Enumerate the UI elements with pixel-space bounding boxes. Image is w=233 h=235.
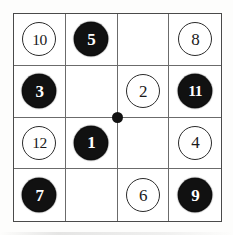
- token-9[interactable]: 9: [178, 178, 212, 212]
- token-8[interactable]: 8: [178, 22, 212, 56]
- grid-cell-r4c2[interactable]: [66, 169, 118, 221]
- grid-cell-r1c3[interactable]: [118, 14, 170, 66]
- grid-cell-r3c3[interactable]: [118, 118, 170, 170]
- grid-cell-r2c4[interactable]: 11: [169, 66, 221, 118]
- token-10[interactable]: 10: [22, 22, 56, 56]
- token-12[interactable]: 12: [22, 126, 56, 160]
- token-1[interactable]: 1: [74, 126, 108, 160]
- token-4[interactable]: 4: [178, 126, 212, 160]
- grid-cell-r3c4[interactable]: 4: [169, 118, 221, 170]
- grid-cell-r3c2[interactable]: 1: [66, 118, 118, 170]
- grid-cell-r4c4[interactable]: 9: [169, 169, 221, 221]
- grid-cell-r1c4[interactable]: 8: [169, 14, 221, 66]
- grid-cell-r4c1[interactable]: 7: [14, 169, 66, 221]
- puzzle-figure: 10 5 8 3 2 11 12 1: [0, 0, 233, 235]
- grid-cell-r4c3[interactable]: 6: [118, 169, 170, 221]
- token-5[interactable]: 5: [74, 22, 108, 56]
- grid-cell-r2c3[interactable]: 2: [118, 66, 170, 118]
- grid-cell-r1c1[interactable]: 10: [14, 14, 66, 66]
- token-2[interactable]: 2: [126, 74, 160, 108]
- grid-cell-r3c1[interactable]: 12: [14, 118, 66, 170]
- token-6[interactable]: 6: [126, 178, 160, 212]
- grid-cell-r2c2[interactable]: [66, 66, 118, 118]
- grid-cell-r2c1[interactable]: 3: [14, 66, 66, 118]
- token-7[interactable]: 7: [22, 178, 56, 212]
- grid-cell-r1c2[interactable]: 5: [66, 14, 118, 66]
- token-11[interactable]: 11: [178, 74, 212, 108]
- center-dot-icon: [112, 112, 123, 123]
- scan-edge-artifact: [0, 232, 233, 235]
- token-3[interactable]: 3: [22, 74, 56, 108]
